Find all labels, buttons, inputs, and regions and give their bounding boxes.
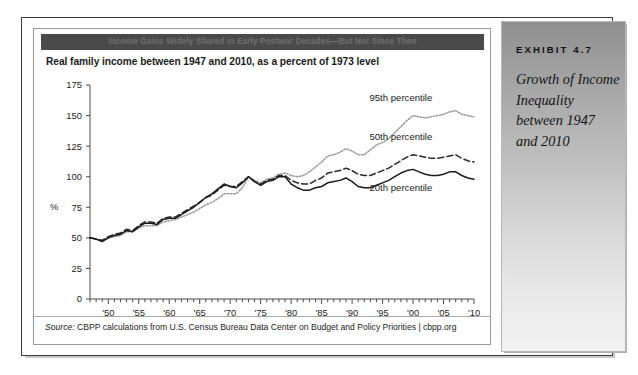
chart-annotations: 95th percentile50th percentile20th perce… <box>369 92 432 193</box>
series-line-20th-percentile <box>90 169 474 241</box>
svg-text:75: 75 <box>72 202 82 213</box>
source-text: CBPP calculations from U.S. Census Burea… <box>75 322 457 332</box>
source-note: Source: CBPP calculations from U.S. Cens… <box>45 321 481 333</box>
svg-text:25: 25 <box>72 263 82 274</box>
exhibit-caption: Growth of Income Inequality between 1947… <box>516 69 620 151</box>
svg-text:0: 0 <box>77 293 82 304</box>
chart-banner: Income Gains Widely Shared in Early Post… <box>41 34 484 50</box>
svg-text:100: 100 <box>66 171 82 182</box>
source-label: Source: <box>45 322 75 332</box>
svg-text:150: 150 <box>66 110 82 121</box>
series-label: 95th percentile <box>369 92 432 103</box>
y-axis-title: % <box>50 201 58 212</box>
svg-text:125: 125 <box>66 141 82 152</box>
svg-text:175: 175 <box>66 79 82 90</box>
y-axis: 0255075100125150175 <box>66 79 90 304</box>
exhibit-side-panel: EXHIBIT 4.7 Growth of Income Inequality … <box>501 21 626 352</box>
chart-banner-text: Income Gains Widely Shared in Early Post… <box>41 34 484 50</box>
series-label: 50th percentile <box>369 131 432 142</box>
series-line-50th-percentile <box>90 155 474 241</box>
figure-card: Income Gains Widely Shared in Early Post… <box>33 28 491 345</box>
svg-text:50: 50 <box>72 232 82 243</box>
line-chart-svg: 0255075100125150175 '50'55'60'65'70'75'8… <box>42 77 484 325</box>
source-divider <box>34 316 490 317</box>
exhibit-number-label: EXHIBIT 4.7 <box>516 44 593 55</box>
chart-subtitle: Real family income between 1947 and 2010… <box>46 56 476 67</box>
series-label: 20th percentile <box>369 182 432 193</box>
exhibit-figure: Income Gains Widely Shared in Early Post… <box>0 0 638 375</box>
chart-plot-area: 0255075100125150175 '50'55'60'65'70'75'8… <box>42 77 484 325</box>
